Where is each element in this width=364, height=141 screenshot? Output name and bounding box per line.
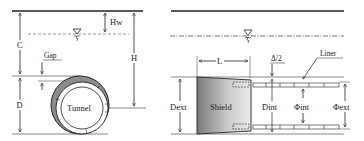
longitudinal-section: L Δ/2 Liner Dext Shield	[170, 11, 358, 134]
water-table-icon	[244, 30, 252, 43]
phi-ext-label: Φext	[333, 102, 350, 112]
liner-label: Liner	[320, 49, 337, 58]
dext-label: Dext	[170, 102, 187, 112]
c-label: C	[17, 40, 23, 50]
hw-label: Hw	[110, 17, 123, 27]
dint-label: Dint	[262, 102, 278, 112]
liner-bottom	[253, 125, 339, 129]
tunnel-cross-section: Tunnel	[51, 76, 109, 134]
cross-section: Hw C H Gap D	[12, 11, 146, 134]
d-label: D	[17, 100, 23, 110]
l-label: L	[217, 56, 222, 66]
water-table-icon	[73, 29, 81, 41]
delta-half-label: Δ/2	[271, 54, 282, 63]
h-label: H	[131, 53, 137, 63]
shield-label: Shield	[210, 102, 232, 112]
tunnel-diagram: Hw C H Gap D	[0, 0, 364, 141]
gap-label: Gap	[44, 51, 57, 60]
phi-int-label: Φint	[294, 102, 310, 112]
tunnel-label: Tunnel	[67, 103, 91, 113]
liner-top	[253, 83, 339, 87]
liner-leader	[303, 58, 317, 79]
